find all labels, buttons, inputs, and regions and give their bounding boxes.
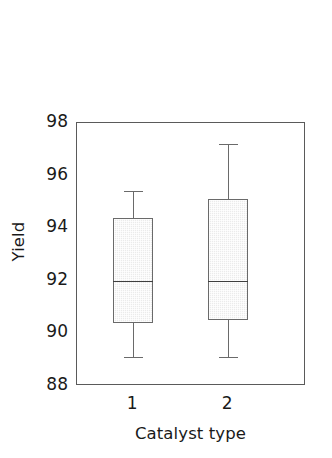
x-tick-label: 2 [207,393,247,413]
y-tick-label: 96 [28,164,68,184]
median-line [113,281,153,282]
whisker-lower [133,323,134,357]
whisker-cap-upper [124,191,143,192]
x-axis-title: Catalyst type [76,424,305,443]
plot-area [76,122,305,385]
whisker-cap-lower [124,357,143,358]
y-tick-label: 98 [28,111,68,131]
whisker-cap-upper [219,144,238,145]
y-tick-label: 92 [28,269,68,289]
box-iqr [113,218,153,323]
x-tick-label: 1 [112,393,152,413]
box-plot-figure: Yield 889092949698 12 Catalyst type [0,0,332,458]
box-iqr [208,199,248,320]
y-tick-label: 88 [28,374,68,394]
whisker-upper [133,191,134,217]
y-axis-title: Yield [9,202,28,282]
whisker-cap-lower [219,357,238,358]
y-tick-label: 94 [28,216,68,236]
y-tick-label: 90 [28,321,68,341]
whisker-lower [228,320,229,357]
median-line [208,281,248,282]
whisker-upper [228,144,229,199]
